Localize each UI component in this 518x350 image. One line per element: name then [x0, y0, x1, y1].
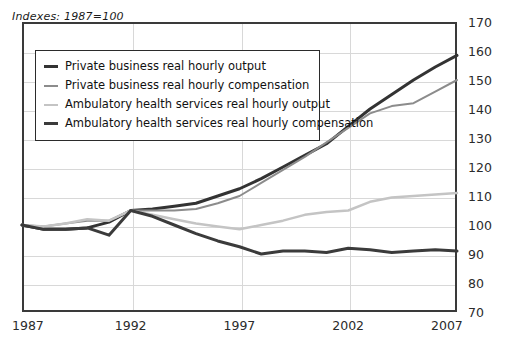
y-axis-tick-label: 130: [468, 131, 492, 146]
y-axis-tick-label: 100: [468, 218, 492, 233]
legend-item: Private business real hourly output: [44, 57, 311, 76]
x-axis-tick-label: 2007: [431, 318, 463, 333]
x-axis-tick-label: 2002: [332, 318, 364, 333]
legend-item-label: Ambulatory health services real hourly c…: [65, 118, 373, 130]
series-line: [22, 193, 457, 229]
y-axis-tick-label: 140: [468, 102, 492, 117]
legend-line-swatch: [44, 65, 58, 68]
y-axis-tick-label: 150: [468, 73, 492, 88]
series-line: [22, 211, 457, 255]
y-axis-tick-label: 170: [468, 15, 492, 30]
x-axis-tick-label: 1992: [115, 318, 147, 333]
legend-item-label: Ambulatory health services real hourly o…: [65, 99, 330, 111]
chart-figure: Indexes: 1987=100 7080901001101201301401…: [0, 0, 518, 350]
legend-item: Private business real hourly compensatio…: [44, 76, 311, 95]
legend-item-label: Private business real hourly compensatio…: [65, 80, 309, 92]
y-axis-tick-label: 120: [468, 160, 492, 175]
x-axis-tick-label: 1987: [12, 318, 44, 333]
legend-item: Ambulatory health services real hourly c…: [44, 114, 311, 133]
y-axis-tick-label: 90: [468, 247, 484, 262]
legend-line-swatch: [44, 85, 58, 87]
legend-item-label: Private business real hourly output: [65, 61, 266, 73]
x-axis-tick-label: 1997: [224, 318, 256, 333]
y-axis-tick-label: 160: [468, 44, 492, 59]
legend-line-swatch: [44, 122, 58, 125]
chart-legend: Private business real hourly outputPriva…: [35, 50, 320, 141]
y-axis-tick-label: 80: [468, 276, 484, 291]
legend-item: Ambulatory health services real hourly o…: [44, 95, 311, 114]
legend-line-swatch: [44, 104, 58, 106]
y-axis-tick-label: 70: [468, 305, 484, 320]
y-axis-tick-label: 110: [468, 189, 492, 204]
